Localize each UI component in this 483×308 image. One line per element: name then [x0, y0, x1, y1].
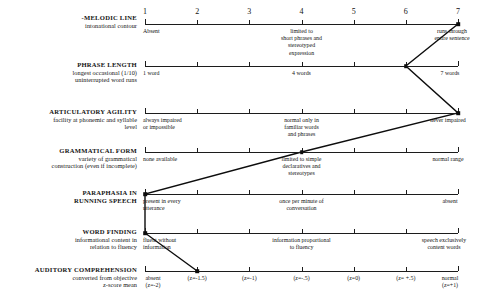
row-subtitle-grammatical-form: variety of grammatical: [2, 155, 137, 162]
row-title-phrase-length: PHRASE LENGTH: [2, 61, 137, 69]
axis-tick-articulatory-agility-2: [197, 109, 198, 113]
axis-tick-melodic-line-2: [197, 20, 198, 24]
anchor-line: 4 words: [261, 70, 343, 77]
axis-tick-paraphasia-in-running-speech-4: [302, 190, 303, 194]
anchor-line: speech exclusively: [403, 237, 483, 244]
zscore-label-3: (z=-.5): [272, 275, 332, 282]
row-subtitle-articulatory-agility: facility at phonemic and syllable: [2, 116, 137, 123]
row-label-auditory-comprehension: AUDITORY COMPREHENSIONconverted from obj…: [2, 266, 137, 289]
anchor-label-word-finding-7: speech exclusivelycontent words: [403, 237, 483, 251]
axis-tick-melodic-line-5: [354, 20, 355, 24]
data-marker-articulatory-agility[interactable]: [456, 111, 460, 115]
anchor-label-paraphasia-in-running-speech-7: absent: [409, 198, 483, 205]
data-marker-word-finding[interactable]: [143, 231, 147, 235]
anchor-line: information proportional: [261, 237, 343, 244]
anchor-label-articulatory-agility-7: never impaired: [407, 117, 483, 124]
axis-tick-phrase-length-4: [302, 62, 303, 66]
axis-tick-grammatical-form-3: [249, 148, 250, 152]
axis-tick-melodic-line-1: [145, 19, 146, 24]
axis-line-paraphasia-in-running-speech: [145, 194, 458, 195]
axis-tick-auditory-comprehension-4: [302, 267, 303, 271]
axis-tick-phrase-length-1: [145, 61, 146, 66]
axis-line-auditory-comprehension: [145, 271, 458, 272]
scale-number-3: 3: [239, 7, 259, 16]
data-marker-auditory-comprehension[interactable]: [195, 269, 199, 273]
data-marker-grammatical-form[interactable]: [300, 150, 304, 154]
scale-number-7: 7: [448, 7, 468, 16]
anchor-line: limited to simple: [261, 156, 343, 163]
anchor-line: content words: [403, 244, 483, 251]
scale-number-4: 4: [292, 7, 312, 16]
row-title-word-finding: WORD FINDING: [2, 228, 137, 236]
anchor-label-melodic-line-1: Absent: [143, 28, 225, 35]
row-subtitle-paraphasia-in-running-speech: RUNNING SPEECH: [2, 197, 137, 205]
anchor-line: limited to: [261, 28, 343, 35]
zscore-line: (z=+1): [420, 282, 480, 289]
row-title-paraphasia-in-running-speech: PARAPHASIA IN: [2, 189, 137, 197]
axis-tick-phrase-length-2: [197, 62, 198, 66]
axis-tick-phrase-length-7: [458, 61, 459, 66]
anchor-label-phrase-length-7: 7 words: [409, 70, 483, 77]
row-subtitle-melodic-line: intonational contour: [2, 22, 137, 29]
axis-line-phrase-length: [145, 66, 458, 67]
axis-tick-grammatical-form-1: [145, 147, 146, 152]
axis-tick-word-finding-3: [249, 229, 250, 233]
anchor-line: 1 word: [143, 70, 225, 77]
anchor-label-paraphasia-in-running-speech-4: once per minute ofconversation: [261, 198, 343, 212]
axis-tick-word-finding-2: [197, 229, 198, 233]
anchor-label-word-finding-1: fluent withoutinformation: [143, 237, 225, 251]
row-subtitle-word-finding: informational content in: [2, 236, 137, 243]
anchor-line: normal range: [407, 156, 483, 163]
axis-line-articulatory-agility: [145, 113, 458, 114]
anchor-line: or impossible: [143, 124, 225, 131]
anchor-line: utterance: [143, 205, 225, 212]
anchor-line: runs through: [411, 28, 483, 35]
axis-tick-grammatical-form-2: [197, 148, 198, 152]
data-marker-melodic-line[interactable]: [456, 22, 460, 26]
row-subtitle-word-finding: relation to fluency: [2, 243, 137, 250]
row-subtitle-grammatical-form: construction (even if incomplete): [2, 162, 137, 169]
axis-tick-phrase-length-5: [354, 62, 355, 66]
axis-tick-melodic-line-6: [406, 20, 407, 24]
axis-tick-auditory-comprehension-6: [406, 267, 407, 271]
zscore-line: (z=-.5): [272, 275, 332, 282]
rating-scale-profile-chart: -MELODIC LINEintonational contour1234567…: [0, 0, 483, 308]
axis-tick-word-finding-5: [354, 229, 355, 233]
scale-number-2: 2: [187, 7, 207, 16]
axis-tick-auditory-comprehension-3: [249, 267, 250, 271]
anchor-label-articulatory-agility-4: normal only infamiliar wordsand phrases: [261, 117, 343, 139]
scale-number-1: 1: [135, 7, 155, 16]
anchor-line: normal only in: [261, 117, 343, 124]
anchor-line: expression: [261, 50, 343, 57]
axis-tick-paraphasia-in-running-speech-6: [406, 190, 407, 194]
axis-tick-auditory-comprehension-7: [458, 266, 459, 271]
anchor-line: never impaired: [407, 117, 483, 124]
row-subtitle-auditory-comprehension: z-score mean: [2, 281, 137, 288]
axis-tick-paraphasia-in-running-speech-5: [354, 190, 355, 194]
axis-tick-paraphasia-in-running-speech-3: [249, 190, 250, 194]
anchor-line: to fluency: [261, 244, 343, 251]
anchor-line: present in every: [143, 198, 225, 205]
zscore-line: (z=-1.5): [167, 275, 227, 282]
data-marker-paraphasia-in-running-speech[interactable]: [143, 192, 147, 196]
axis-tick-grammatical-form-7: [458, 147, 459, 152]
anchor-line: information: [143, 244, 225, 251]
anchor-line: fluent without: [143, 237, 225, 244]
row-label-articulatory-agility: ARTICULATORY AGILITYfacility at phonemic…: [2, 108, 137, 131]
anchor-label-melodic-line-4: limited toshort phrases andstereotypedex…: [261, 28, 343, 57]
scale-number-6: 6: [396, 7, 416, 16]
axis-tick-grammatical-form-6: [406, 148, 407, 152]
axis-tick-word-finding-6: [406, 229, 407, 233]
axis-line-word-finding: [145, 233, 458, 234]
row-title-melodic-line: -MELODIC LINE: [2, 14, 137, 22]
axis-tick-melodic-line-3: [249, 20, 250, 24]
row-label-melodic-line: -MELODIC LINEintonational contour: [2, 14, 137, 29]
anchor-line: declaratives and: [261, 163, 343, 170]
axis-tick-grammatical-form-5: [354, 148, 355, 152]
anchor-label-word-finding-4: information proportionalto fluency: [261, 237, 343, 251]
zscore-line: normal: [420, 275, 480, 282]
data-marker-phrase-length[interactable]: [404, 64, 408, 68]
axis-tick-articulatory-agility-4: [302, 109, 303, 113]
anchor-label-articulatory-agility-1: always impairedor impossible: [143, 117, 225, 131]
anchor-label-melodic-line-7: runs throughentire sentence: [411, 28, 483, 42]
